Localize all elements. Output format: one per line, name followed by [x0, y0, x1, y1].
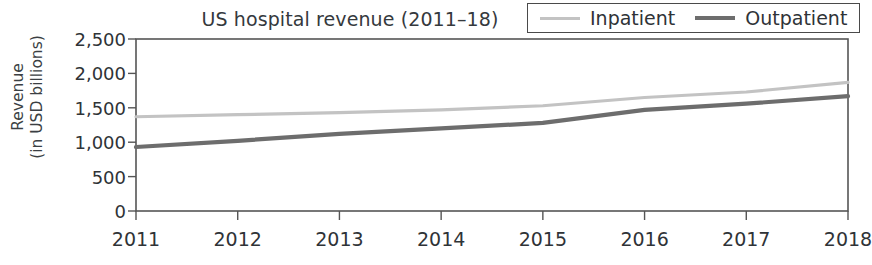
series-line-inpatient [136, 82, 848, 116]
axis-tick-marks [128, 39, 848, 220]
data-series-lines [136, 82, 848, 147]
series-line-outpatient [136, 96, 848, 147]
